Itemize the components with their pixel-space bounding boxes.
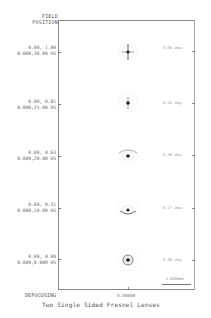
field-position-header: FIELD POSITION [14,13,58,25]
tick [58,208,61,209]
tick [58,156,61,157]
tick [128,287,129,290]
deg-label: 0.00 deg. [163,257,184,262]
tick [58,259,61,260]
tick [192,260,195,261]
figure-title: Two Single Sided Fresnel Lenses [42,301,160,308]
spot-pattern-icon [113,141,143,171]
deg-label: 0.00 deg. [163,45,184,50]
field-angle: 0.000,0.000 DG [0,260,56,266]
header-line2: POSITION [14,19,58,25]
scale-label: 1.0000mm [166,277,183,281]
tick [58,52,61,53]
deg-label: 0.17 deg. [163,205,184,210]
spot-pattern-icon [113,245,143,275]
tick [192,51,195,52]
field-angle: 0.000,10.00 DG [0,208,56,214]
field-angle: 0.000,20.00 DG [0,156,56,162]
defocus-label: DEFOCUSING [25,292,56,298]
scale-bar [162,284,191,285]
defocus-value: 0.00000 [117,293,136,298]
deg-label: 0.30 deg. [163,152,184,157]
tick [192,155,195,156]
spot-pattern-icon [113,193,143,223]
spot-pattern-icon [113,88,143,118]
field-angle: 0.000,25.00 DG [0,105,56,111]
deg-label: 0.43 deg. [163,100,184,105]
tick [58,104,61,105]
tick [192,103,195,104]
field-angle: 0.000,30.00 DG [0,51,56,57]
tick [192,208,195,209]
spot-pattern-icon [113,37,143,67]
